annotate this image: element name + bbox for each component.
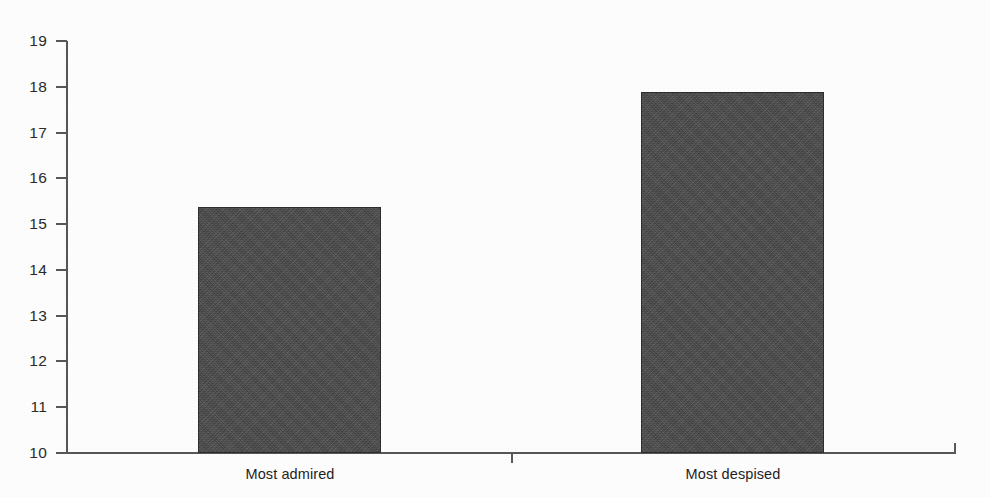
y-tick-label: 10 [29, 444, 47, 462]
y-tick-label: 11 [31, 398, 48, 416]
y-tick-mark [56, 315, 67, 317]
x-axis-end-tick [954, 443, 956, 454]
y-tick-mark [56, 177, 67, 179]
y-axis-line [66, 41, 68, 454]
y-tick-label: 14 [29, 261, 47, 279]
y-tick-mark [56, 269, 67, 271]
y-tick-mark [56, 360, 67, 362]
x-tick-label-most-admired: Most admired [245, 466, 334, 482]
x-tick-label-most-despised: Most despised [686, 466, 781, 482]
y-tick-mark [56, 452, 67, 454]
y-tick-mark [56, 40, 67, 42]
y-tick-label: 12 [29, 352, 47, 370]
category-separator-tick [511, 453, 513, 463]
y-tick-label: 19 [29, 32, 47, 50]
y-tick-label: 17 [29, 124, 47, 142]
y-tick-label: 13 [29, 307, 47, 325]
bar-chart-figure: 19 18 17 16 15 14 13 12 11 10 [0, 0, 990, 497]
bar-most-admired [198, 207, 381, 453]
y-tick-mark [56, 223, 67, 225]
y-tick-mark [56, 132, 67, 134]
y-tick-mark [56, 86, 67, 88]
y-tick-label: 18 [29, 78, 47, 96]
y-tick-mark [56, 406, 67, 408]
y-tick-label: 16 [29, 169, 47, 187]
y-tick-label: 15 [29, 215, 47, 233]
bar-most-despised [641, 92, 824, 453]
